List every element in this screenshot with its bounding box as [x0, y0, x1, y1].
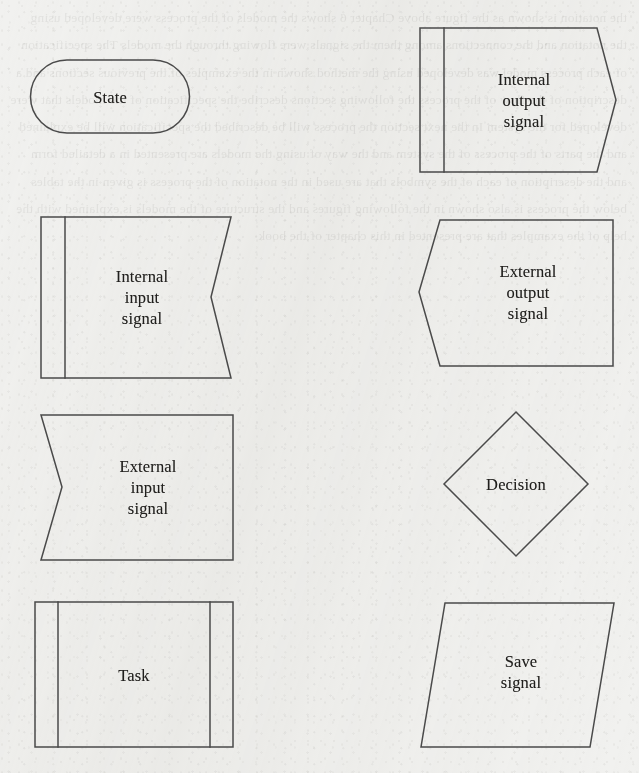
label-internal-output-signal: Internal output signal — [498, 69, 551, 132]
label-external-output-signal: External output signal — [499, 261, 556, 324]
label-task: Task — [118, 665, 150, 686]
label-save-signal: Save signal — [501, 651, 541, 693]
label-decision: Decision — [486, 474, 546, 495]
label-external-input-signal: External input signal — [119, 456, 176, 519]
label-state: State — [93, 87, 127, 108]
flowchart-symbol-sheet: the notation is shown as the figure abov… — [0, 0, 639, 773]
label-internal-input-signal: Internal input signal — [116, 266, 169, 329]
